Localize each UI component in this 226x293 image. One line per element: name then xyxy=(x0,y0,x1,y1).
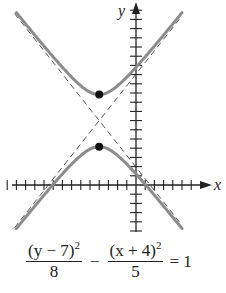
x-term-numerator: (x + 4)2 xyxy=(108,242,164,262)
asymptotes xyxy=(15,14,182,228)
minus-operator: − xyxy=(90,253,100,271)
fraction-y-term: (y − 7)2 8 xyxy=(26,242,82,282)
y-term-numerator: (y − 7)2 xyxy=(26,242,82,262)
coordinate-axes xyxy=(7,2,212,232)
upper-branch xyxy=(16,13,182,95)
y-term-denominator: 8 xyxy=(50,262,59,282)
equation: (y − 7)2 8 − (x + 4)2 5 = 1 xyxy=(26,242,200,282)
x-axis-label: x xyxy=(213,176,221,193)
y-axis-label: y xyxy=(116,2,126,20)
vertex-dot xyxy=(95,91,103,99)
x-term-base: (x + 4) xyxy=(110,241,156,260)
x-term-denominator: 5 xyxy=(131,262,140,282)
equals-one: = 1 xyxy=(169,253,191,271)
y-term-exponent: 2 xyxy=(74,239,80,251)
hyperbola-graph: x y xyxy=(0,0,226,240)
vertex-dot xyxy=(95,143,103,151)
fraction-x-term: (x + 4)2 5 xyxy=(108,242,164,282)
x-term-exponent: 2 xyxy=(156,239,162,251)
y-term-base: (y − 7) xyxy=(28,241,74,260)
